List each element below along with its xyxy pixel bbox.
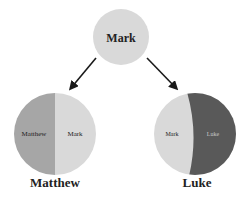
segment-label-mark: Mark — [67, 130, 83, 138]
source-node-mark: Mark — [93, 9, 149, 65]
diagram-svg: Mark Matthew Mark Mark Luke — [0, 0, 252, 198]
node-title-luke: Luke — [152, 175, 242, 191]
node-title-matthew: Matthew — [10, 175, 100, 191]
arrow-mark-to-luke — [147, 58, 176, 88]
segment-label-mark: Mark — [166, 131, 179, 137]
segment-label-luke: Luke — [207, 131, 220, 137]
source-node-label: Mark — [106, 31, 136, 45]
arrow-mark-to-matthew — [71, 58, 96, 88]
derived-node-luke: Mark Luke — [153, 92, 240, 176]
derived-node-matthew: Matthew Mark — [14, 93, 97, 175]
segment-label-matthew: Matthew — [22, 130, 48, 138]
diagram-canvas: Mark Matthew Mark Mark Luke Matthew Luke — [0, 0, 252, 198]
